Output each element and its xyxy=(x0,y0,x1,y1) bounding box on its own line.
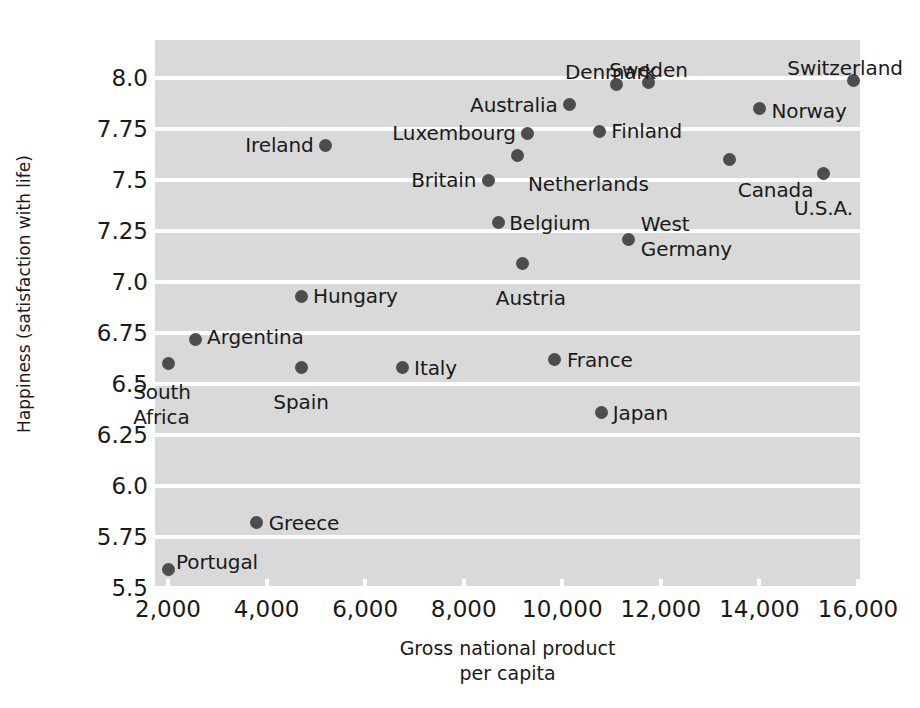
x-axis-tick-mark xyxy=(265,579,269,588)
data-point-finland xyxy=(593,125,606,138)
gridline xyxy=(155,535,860,539)
x-axis-tick-label: 6,000 xyxy=(332,596,398,622)
y-axis-tick-label: 7.75 xyxy=(97,116,148,142)
data-point-argentina xyxy=(189,333,202,346)
plot-area: SwitzerlandSwedenDenmarkNorwayAustraliaF… xyxy=(155,40,860,588)
gridline xyxy=(155,484,860,488)
point-label-finland: Finland xyxy=(611,119,682,144)
gridline xyxy=(155,76,860,80)
point-label-belgium: Belgium xyxy=(509,210,590,235)
point-label-luxembourg: Luxembourg xyxy=(392,121,516,146)
y-axis-tick-label: 7.0 xyxy=(111,269,148,295)
x-axis-tick-label: 14,000 xyxy=(719,596,799,622)
point-label-japan: Japan xyxy=(613,400,668,425)
gridline xyxy=(155,229,860,233)
x-axis-tick-mark xyxy=(166,579,170,588)
point-label-spain: Spain xyxy=(273,390,328,415)
x-axis-tick-label: 12,000 xyxy=(621,596,701,622)
point-label-austria: Austria xyxy=(496,286,566,311)
point-label-norway: Norway xyxy=(771,98,846,123)
point-label-argentina: Argentina xyxy=(207,325,304,350)
point-label-britain: Britain xyxy=(411,168,476,193)
x-axis-title-line-1: Gross national product xyxy=(155,636,860,661)
point-label-australia: Australia xyxy=(470,92,558,117)
y-axis-title: Happiness (satisfaction with life) xyxy=(14,84,34,504)
gridline xyxy=(155,280,860,284)
data-point-luxembourg xyxy=(521,127,534,140)
gridline xyxy=(155,382,860,386)
data-point-italy xyxy=(396,361,409,374)
x-axis-tick-label: 10,000 xyxy=(522,596,602,622)
x-axis-tick-mark xyxy=(560,579,564,588)
gridline xyxy=(155,586,860,590)
y-axis-tick-label: 6.75 xyxy=(97,320,148,346)
y-axis-tick-label: 7.5 xyxy=(111,167,148,193)
data-point-south-africa xyxy=(162,357,175,370)
x-axis-tick-mark xyxy=(363,579,367,588)
gridline xyxy=(155,433,860,437)
point-label-u-s-a: U.S.A. xyxy=(794,196,853,221)
y-axis-tick-label: 6.25 xyxy=(97,422,148,448)
point-label-france: France xyxy=(567,347,633,372)
scatter-plot-figure: SwitzerlandSwedenDenmarkNorwayAustraliaF… xyxy=(0,0,920,708)
data-point-japan xyxy=(595,406,608,419)
data-point-portugal xyxy=(162,563,175,576)
y-axis-tick-label: 5.75 xyxy=(97,524,148,550)
point-label-hungary: Hungary xyxy=(313,284,398,309)
data-point-greece xyxy=(250,516,263,529)
data-point-australia xyxy=(563,98,576,111)
x-axis-tick-label: 2,000 xyxy=(135,596,201,622)
y-axis-tick-label: 7.25 xyxy=(97,218,148,244)
data-point-hungary xyxy=(295,290,308,303)
y-axis-tick-label: 6.5 xyxy=(111,371,148,397)
data-point-west-germany xyxy=(622,233,635,246)
x-axis-tick-mark xyxy=(659,579,663,588)
point-label-italy: Italy xyxy=(414,355,457,380)
point-label-ireland: Ireland xyxy=(245,133,313,158)
data-point-austria xyxy=(516,257,529,270)
x-axis-title: Gross national product per capita xyxy=(155,636,860,686)
y-axis-tick-label: 6.0 xyxy=(111,473,148,499)
x-axis-tick-mark xyxy=(462,579,466,588)
data-point-netherlands xyxy=(511,149,524,162)
data-point-norway xyxy=(753,102,766,115)
point-label-netherlands: Netherlands xyxy=(528,172,649,197)
x-axis-tick-mark xyxy=(757,579,761,588)
data-point-spain xyxy=(295,361,308,374)
point-label-denmark: Denmark xyxy=(565,60,656,85)
x-axis-tick-label: 4,000 xyxy=(234,596,300,622)
point-label-greece: Greece xyxy=(269,510,340,535)
x-axis-title-line-2: per capita xyxy=(155,661,860,686)
x-axis-tick-mark xyxy=(856,579,860,588)
data-point-britain xyxy=(482,174,495,187)
data-point-belgium xyxy=(492,216,505,229)
data-point-canada xyxy=(723,153,736,166)
y-axis-tick-label: 8.0 xyxy=(111,65,148,91)
x-axis-tick-label: 8,000 xyxy=(431,596,497,622)
point-label-switzerland: Switzerland xyxy=(787,56,903,81)
data-point-ireland xyxy=(319,139,332,152)
x-axis-tick-label: 16,000 xyxy=(818,596,898,622)
data-point-france xyxy=(548,353,561,366)
point-label-portugal: Portugal xyxy=(176,550,258,575)
point-label-west-germany: West Germany xyxy=(641,212,732,262)
